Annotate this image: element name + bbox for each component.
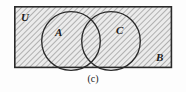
set-b-label: B (156, 52, 163, 63)
set-c-label: C (116, 25, 123, 36)
set-a-label: A (55, 27, 62, 38)
figure-caption: (c) (0, 73, 186, 84)
venn-diagram-figure: U A C B (c) (0, 0, 186, 92)
universal-set-rectangle (15, 7, 172, 68)
universal-set-label: U (21, 12, 29, 23)
